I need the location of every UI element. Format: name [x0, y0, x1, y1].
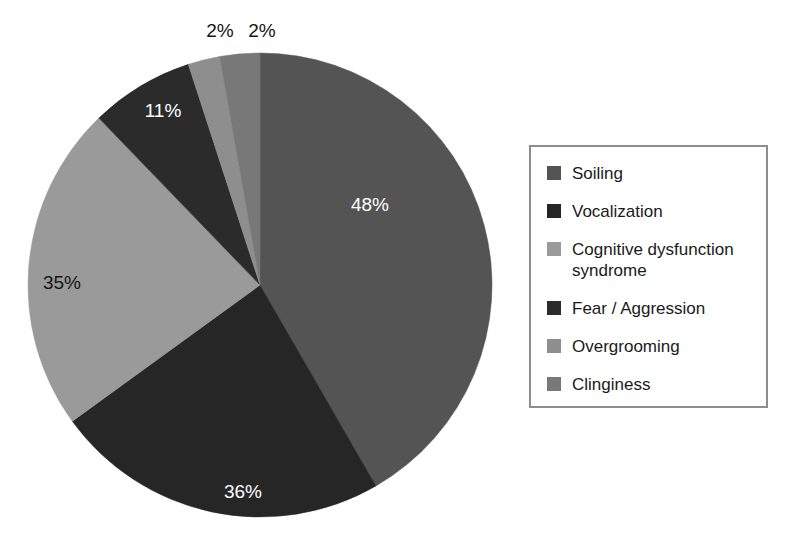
pie-slice-label: 48%	[351, 194, 389, 215]
legend-swatch-icon	[547, 301, 561, 315]
legend-item-label: Cognitive dysfunction syndrome	[572, 239, 734, 281]
pie-slice-label: 36%	[224, 481, 262, 502]
legend-swatch-icon	[547, 204, 561, 218]
legend-item-label: Fear / Aggression	[572, 298, 705, 319]
legend-item: Overgrooming	[547, 336, 756, 357]
pie-slices	[28, 53, 492, 517]
legend-swatch-icon	[547, 166, 561, 180]
legend-item-label: Vocalization	[572, 201, 663, 222]
pie-slice-label: 2%	[206, 20, 234, 41]
legend-item-label: Soiling	[572, 163, 623, 184]
pie-slice-label: 11%	[145, 100, 182, 121]
legend-item: Vocalization	[547, 201, 756, 222]
pie-slice-label: 35%	[43, 272, 81, 293]
legend-swatch-icon	[547, 377, 561, 391]
legend-item: Clinginess	[547, 374, 756, 395]
legend-item-label: Overgrooming	[572, 336, 680, 357]
pie-chart: 48%36%35%11%2%2% SoilingVocalizationCogn…	[0, 0, 806, 556]
legend-item: Fear / Aggression	[547, 298, 756, 319]
legend-item: Cognitive dysfunction syndrome	[547, 239, 756, 281]
chart-legend: SoilingVocalizationCognitive dysfunction…	[529, 145, 768, 408]
pie-graphic: 48%36%35%11%2%2%	[0, 0, 520, 556]
legend-item: Soiling	[547, 163, 756, 184]
legend-swatch-icon	[547, 339, 561, 353]
legend-item-label: Clinginess	[572, 374, 650, 395]
legend-swatch-icon	[547, 242, 561, 256]
pie-slice-label: 2%	[248, 20, 276, 41]
